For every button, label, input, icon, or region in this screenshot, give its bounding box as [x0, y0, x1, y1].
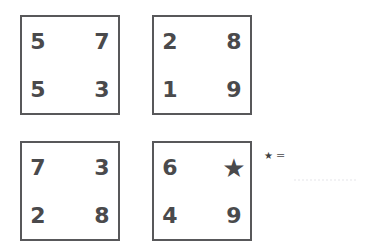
star-icon: ★: [264, 150, 273, 161]
number-box-top-left: 5 7 5 3: [20, 15, 120, 115]
cell-value: 2: [154, 29, 202, 53]
cell-value: 2: [22, 203, 70, 227]
answer-area: ★=: [264, 150, 368, 161]
cell-value: 3: [70, 155, 118, 179]
cell-value: 1: [154, 77, 202, 101]
cell-value: 5: [22, 77, 70, 101]
number-box-bottom-left: 7 3 2 8: [20, 141, 120, 241]
cell-value: 9: [202, 203, 250, 227]
cell-value: 3: [70, 77, 118, 101]
answer-label: ★=: [264, 150, 368, 161]
cell-value: 9: [202, 77, 250, 101]
equals-sign: =: [276, 149, 285, 162]
cell-value: 8: [202, 29, 250, 53]
cell-value: 7: [22, 155, 70, 179]
cell-value: 8: [70, 203, 118, 227]
number-box-top-right: 2 8 1 9: [152, 15, 252, 115]
number-box-bottom-right: 6 ★ 4 9: [152, 141, 252, 241]
cell-value: 7: [70, 29, 118, 53]
answer-blank-input[interactable]: [294, 176, 356, 181]
cell-value: 6: [154, 155, 202, 179]
cell-value: 4: [154, 203, 202, 227]
cell-value: 5: [22, 29, 70, 53]
star-icon: ★: [202, 153, 250, 181]
puzzle-canvas: 5 7 5 3 2 8 1 9 7 3 2 8 6 ★ 4 9 ★=: [0, 0, 374, 252]
